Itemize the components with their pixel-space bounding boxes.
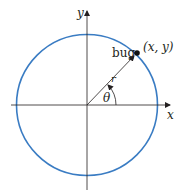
x-axis-label: x xyxy=(167,108,174,122)
bug-on-circle-diagram: y x bug (x, y) r θ xyxy=(0,0,183,196)
angle-label: θ xyxy=(103,91,111,105)
point-coordinates-label: (x, y) xyxy=(143,40,174,54)
y-axis-label: y xyxy=(76,6,84,20)
bug-label: bug xyxy=(112,46,135,60)
